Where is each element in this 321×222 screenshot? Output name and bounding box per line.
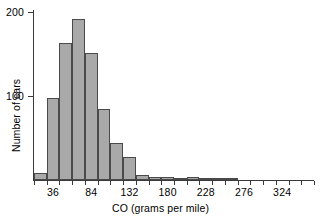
- histogram-bar: [136, 175, 149, 180]
- x-axis-tick: [136, 181, 137, 185]
- bars-layer: [34, 8, 314, 180]
- x-axis-tick-label: 132: [114, 186, 144, 198]
- x-axis-tick-label: 84: [76, 186, 106, 198]
- histogram-bar: [98, 109, 111, 180]
- histogram-bar: [149, 177, 162, 180]
- x-axis-tick-label: 36: [38, 186, 68, 198]
- x-axis-tick: [98, 181, 99, 185]
- x-axis-tick: [250, 181, 251, 185]
- histogram-bar: [212, 178, 225, 180]
- x-axis-tick-label: 276: [229, 186, 259, 198]
- histogram-bar: [34, 173, 47, 180]
- histogram-bar: [85, 53, 98, 180]
- x-axis-tick: [314, 181, 315, 185]
- histogram-bar: [187, 177, 200, 180]
- x-axis-tick: [289, 181, 290, 185]
- x-axis-tick-label: 180: [153, 186, 183, 198]
- x-axis-tick: [149, 181, 150, 185]
- x-axis-tick: [199, 181, 200, 185]
- x-axis-title: CO (grams per mile): [0, 202, 321, 214]
- x-axis-tick: [276, 181, 277, 185]
- x-axis-tick: [72, 181, 73, 185]
- histogram-bar: [174, 178, 187, 180]
- x-axis-tick: [212, 181, 213, 185]
- x-axis-tick: [263, 181, 264, 185]
- histogram-bar: [47, 98, 60, 180]
- histogram-bar: [123, 157, 136, 180]
- y-axis-tick-label: 200: [0, 6, 24, 18]
- histogram-bar: [72, 19, 85, 180]
- x-axis-tick: [161, 181, 162, 185]
- x-axis-tick: [174, 181, 175, 185]
- y-axis-tick: [28, 96, 33, 97]
- x-axis-tick: [301, 181, 302, 185]
- x-axis-tick: [85, 181, 86, 185]
- x-axis-tick: [34, 181, 35, 185]
- x-axis-tick: [110, 181, 111, 185]
- histogram-chart: 100200 3684132180228276324 CO (grams per…: [0, 0, 321, 222]
- x-axis-tick: [187, 181, 188, 185]
- x-axis-tick: [59, 181, 60, 185]
- x-axis-tick: [47, 181, 48, 185]
- histogram-bar: [110, 143, 123, 180]
- histogram-bar: [225, 178, 238, 180]
- y-axis-title: Number of cars: [10, 79, 22, 152]
- histogram-bar: [199, 178, 212, 180]
- x-axis-tick: [238, 181, 239, 185]
- histogram-bar: [59, 43, 72, 180]
- x-axis-tick: [123, 181, 124, 185]
- x-axis-tick-label: 228: [191, 186, 221, 198]
- x-axis-tick-label: 324: [267, 186, 297, 198]
- histogram-bar: [161, 177, 174, 180]
- y-axis-tick: [28, 12, 33, 13]
- x-axis-tick: [225, 181, 226, 185]
